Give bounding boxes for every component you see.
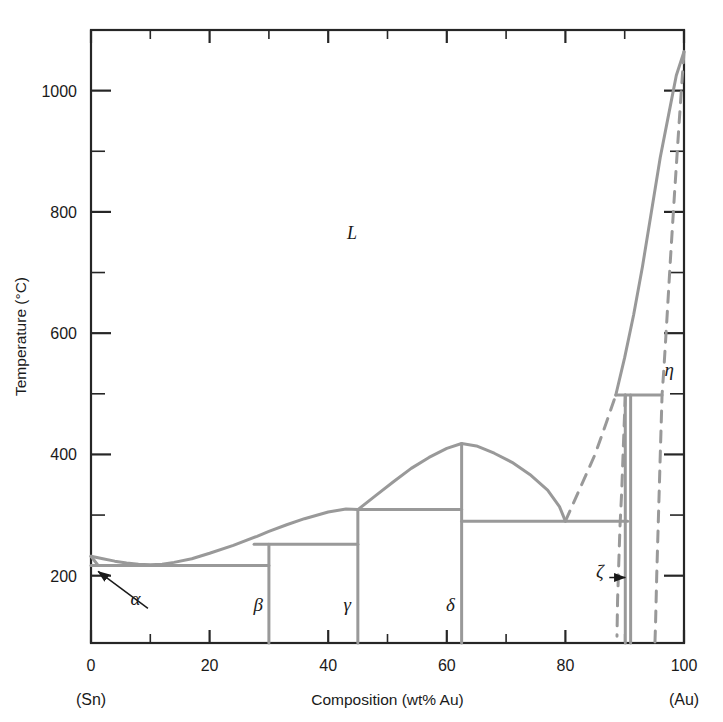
phase-label-delta: δ [446, 594, 456, 615]
x-tick-label-100: 100 [671, 657, 698, 674]
y-tick-label-400: 400 [50, 446, 77, 463]
phase-diagram-svg: 0204060801002004006008001000Composition … [0, 0, 723, 722]
plot-frame [91, 30, 684, 643]
phase-label-liquid: L [346, 223, 357, 243]
y-tick-label-1000: 1000 [41, 83, 77, 100]
y-axis-label: Temperature (°C) [12, 277, 29, 396]
y-tick-label-600: 600 [50, 325, 77, 342]
phase-label-beta: β [252, 594, 263, 615]
phase-label-alpha: α [130, 588, 141, 609]
phase-diagram-figure: 0204060801002004006008001000Composition … [0, 0, 723, 722]
phase-label-zeta: ζ [596, 561, 605, 582]
phase-label-gamma: γ [343, 594, 351, 615]
x-tick-label-40: 40 [319, 657, 337, 674]
x-tick-label-0: 0 [87, 657, 96, 674]
x-endpoint-right: (Au) [669, 691, 699, 708]
phase-label-eta: η [664, 359, 673, 380]
x-endpoint-left: (Sn) [76, 691, 106, 708]
y-tick-label-800: 800 [50, 204, 77, 221]
y-tick-label-200: 200 [50, 568, 77, 585]
x-tick-label-20: 20 [201, 657, 219, 674]
x-tick-label-80: 80 [557, 657, 575, 674]
x-axis-label: Composition (wt% Au) [311, 691, 463, 708]
x-tick-label-60: 60 [438, 657, 456, 674]
